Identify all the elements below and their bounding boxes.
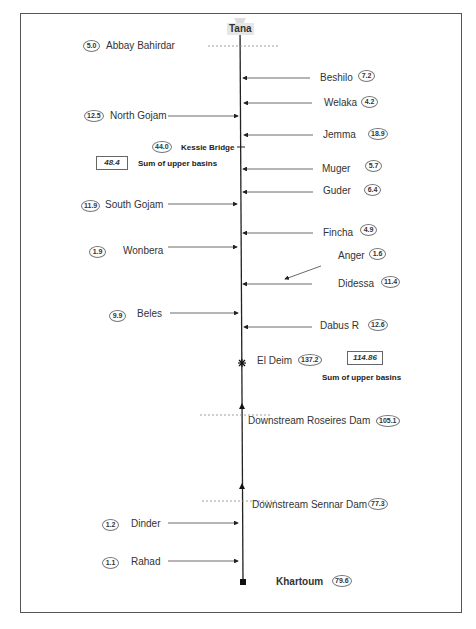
outlet-label-khartoum: Khartoum (276, 576, 323, 588)
khartoum-outlet-icon (240, 579, 246, 585)
flow-direction-icon (239, 403, 245, 409)
tributary-value: 1.2 (102, 519, 119, 531)
tributary-value: 4.2 (361, 96, 378, 108)
tributary-label-south-gojam: South Gojam (105, 199, 163, 211)
station-label-downstream-roseires: Downstream Roseires Dam (248, 415, 370, 427)
tributary-value: 5.7 (365, 160, 382, 172)
main-river-line (240, 24, 243, 582)
tributary-value: 12.6 (368, 319, 388, 331)
station-value: 137.2 (298, 354, 322, 366)
tributary-label-muger: Muger (322, 163, 350, 175)
sum-upper-basins-label: Sum of upper basins (138, 158, 217, 170)
tributary-label-guder: Guder (323, 185, 351, 197)
flow-direction-icon (239, 483, 245, 489)
el-deim-station-icon (238, 359, 246, 367)
tributary-value: 1.9 (89, 246, 106, 258)
sum-upper-basins-box: 114.86 (347, 351, 383, 365)
tributary-value: 18.9 (368, 128, 388, 140)
station-label-el-deim: El Deim (257, 355, 292, 367)
tributary-value: 1.6 (369, 248, 386, 260)
tributary-label-rahad: Rahad (131, 556, 160, 568)
tributary-label-didessa: Didessa (338, 278, 374, 290)
tributary-label-jemma: Jemma (323, 129, 356, 141)
tributary-value: 12.5 (84, 110, 104, 122)
tana-label: Tana (227, 23, 254, 35)
tributary-value: 6.4 (364, 184, 381, 196)
sum-upper-basins-label: Sum of upper basins (322, 372, 401, 384)
tributary-value: 1.1 (102, 557, 119, 569)
station-label-abbay-bahirdar: Abbay Bahirdar (106, 40, 175, 52)
station-value: 5.0 (83, 40, 100, 52)
tributary-value: 4.9 (360, 224, 377, 236)
tributary-label-dabus: Dabus R (320, 320, 359, 332)
tributary-value: 7.2 (358, 70, 375, 82)
tributary-label-north-gojam: North Gojam (110, 110, 167, 122)
station-value: 44.0 (152, 141, 172, 153)
station-label-downstream-sennar: Downstream Sennar Dam (252, 499, 367, 511)
tributary-value: 9.9 (109, 310, 126, 322)
sum-upper-basins-box: 48.4 (96, 156, 128, 170)
tributary-label-wonbera: Wonbera (123, 245, 163, 257)
tributary-label-welaka: Welaka (324, 97, 357, 109)
tributary-label-fincha: Fincha (323, 227, 353, 239)
tributary-label-beles: Beles (137, 308, 162, 320)
station-value: 77.3 (368, 498, 388, 510)
tributary-label-dinder: Dinder (131, 518, 160, 530)
station-value: 105.1 (376, 415, 400, 427)
tributary-label-beshilo: Beshilo (320, 72, 353, 84)
tributary-label-anger: Anger (338, 250, 365, 262)
outlet-value: 79.6 (332, 575, 352, 587)
river-network-schematic (0, 0, 476, 629)
station-label-kessie-bridge: Kessie Bridge (181, 142, 234, 154)
